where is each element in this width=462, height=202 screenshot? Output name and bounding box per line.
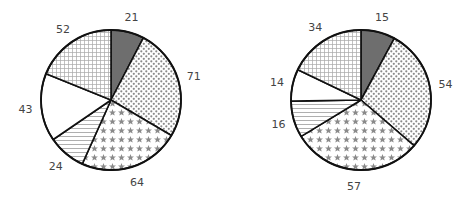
slice-value-label: 14: [270, 76, 284, 89]
slice-value-label: 64: [130, 176, 144, 189]
slice-value-label: 24: [49, 160, 63, 173]
slice-value-label: 16: [271, 118, 285, 131]
slice-value-label: 52: [56, 23, 70, 36]
slice-value-label: 34: [308, 21, 322, 34]
slice-value-label: 43: [19, 103, 33, 116]
chart-canvas: 217164244352 155457161434: [0, 0, 462, 202]
slice-value-label: 15: [375, 11, 389, 24]
pie-chart-right: 155457161434: [270, 11, 453, 193]
pie-charts: 217164244352 155457161434: [0, 0, 462, 202]
pie-chart-left: 217164244352: [19, 11, 201, 189]
slice-value-label: 54: [439, 78, 453, 91]
slice-value-label: 57: [347, 180, 361, 193]
slice-value-label: 71: [187, 70, 201, 83]
slice-value-label: 21: [124, 11, 138, 24]
